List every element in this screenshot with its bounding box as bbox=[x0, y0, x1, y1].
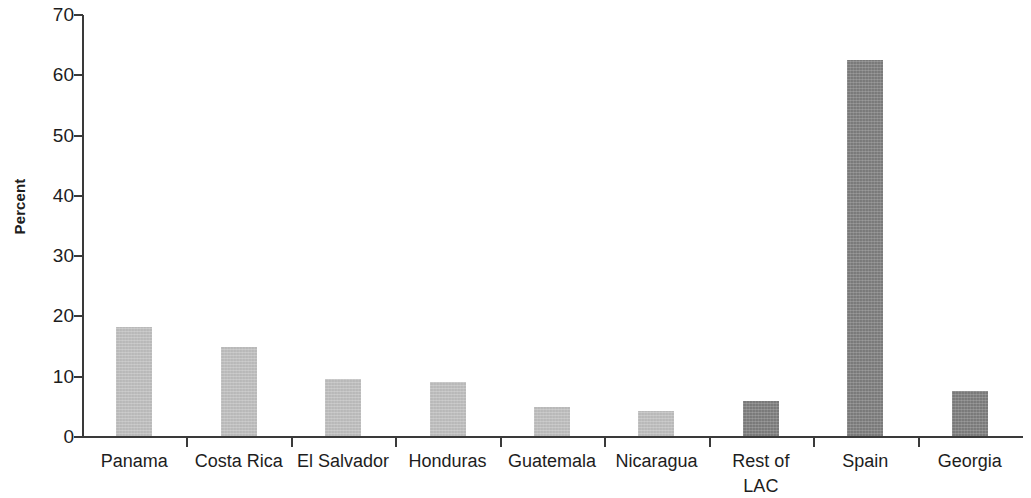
y-tick-label: 70 bbox=[14, 3, 74, 27]
bar-chart: Percent 706050403020100 PanamaCosta Rica… bbox=[0, 0, 1031, 498]
bar-texture bbox=[221, 347, 257, 437]
y-tick-mark bbox=[74, 195, 83, 197]
x-tick-mark bbox=[186, 438, 188, 447]
x-axis-label: Rest of LAC bbox=[709, 449, 813, 498]
x-axis-label: Guatemala bbox=[500, 449, 604, 474]
bar bbox=[638, 411, 674, 437]
bar-texture bbox=[743, 401, 779, 437]
bar-texture bbox=[534, 407, 570, 437]
y-tick-label: 40 bbox=[14, 184, 74, 208]
y-tick-mark bbox=[74, 255, 83, 257]
x-tick-mark bbox=[395, 438, 397, 447]
y-axis-line bbox=[82, 15, 84, 438]
bar-texture bbox=[325, 379, 361, 437]
y-tick-mark bbox=[74, 315, 83, 317]
x-axis-label: Panama bbox=[82, 449, 186, 474]
bar-texture bbox=[847, 60, 883, 437]
bar bbox=[221, 347, 257, 437]
y-tick-label: 30 bbox=[14, 244, 74, 268]
bar-texture bbox=[638, 411, 674, 437]
x-axis-line bbox=[82, 436, 1023, 438]
bar-texture bbox=[952, 391, 988, 437]
y-tick-label: 60 bbox=[14, 63, 74, 87]
y-tick-mark bbox=[74, 376, 83, 378]
bar bbox=[116, 327, 152, 437]
x-tick-mark bbox=[813, 438, 815, 447]
x-axis-label: Georgia bbox=[918, 449, 1022, 474]
y-tick-label: 20 bbox=[14, 304, 74, 328]
x-axis-label: El Salvador bbox=[291, 449, 395, 474]
x-axis-label: Costa Rica bbox=[186, 449, 290, 474]
x-tick-mark bbox=[604, 438, 606, 447]
y-tick-mark bbox=[74, 14, 83, 16]
bar bbox=[847, 60, 883, 437]
y-tick-label: 50 bbox=[14, 124, 74, 148]
x-tick-mark bbox=[291, 438, 293, 447]
bar bbox=[743, 401, 779, 437]
bar bbox=[952, 391, 988, 437]
bar-texture bbox=[116, 327, 152, 437]
bar bbox=[534, 407, 570, 437]
x-tick-mark bbox=[918, 438, 920, 447]
y-tick-label: 10 bbox=[14, 365, 74, 389]
y-tick-mark bbox=[74, 135, 83, 137]
x-tick-mark bbox=[500, 438, 502, 447]
x-axis-label: Honduras bbox=[395, 449, 499, 474]
x-axis-label: Spain bbox=[813, 449, 917, 474]
y-tick-label: 0 bbox=[14, 425, 74, 449]
bar bbox=[325, 379, 361, 437]
x-tick-mark bbox=[709, 438, 711, 447]
bar bbox=[430, 382, 466, 437]
x-axis-label: Nicaragua bbox=[604, 449, 708, 474]
bar-texture bbox=[430, 382, 466, 437]
y-tick-mark bbox=[74, 74, 83, 76]
